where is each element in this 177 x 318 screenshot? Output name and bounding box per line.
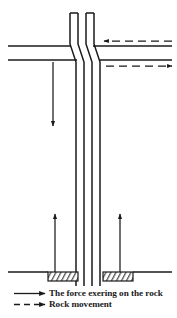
figure-background	[0, 0, 177, 318]
legend-label-force: The force exering on the rock	[49, 288, 163, 299]
hatched-block-left	[48, 272, 78, 281]
rock-movement-diagram	[0, 0, 177, 318]
solid-arrow-right-icon	[13, 288, 49, 299]
figure-root: The force exering on the rock Rock movem…	[0, 0, 177, 318]
legend-item-force: The force exering on the rock	[0, 288, 177, 299]
legend: The force exering on the rock Rock movem…	[0, 288, 177, 310]
legend-item-movement: Rock movement	[0, 299, 177, 310]
hatched-block-right	[103, 272, 133, 281]
legend-label-movement: Rock movement	[49, 299, 112, 310]
dashed-arrow-right-icon	[13, 299, 49, 310]
